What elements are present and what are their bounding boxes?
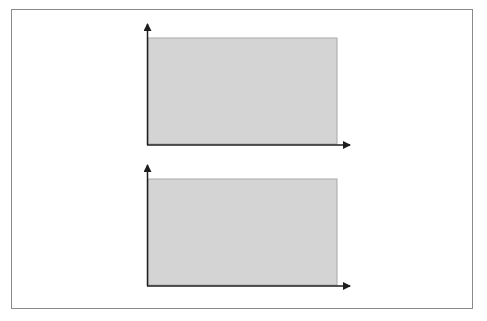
diagram-top (147, 24, 350, 145)
plot-area (148, 38, 337, 144)
plot-area (148, 179, 337, 285)
diagram-canvas (0, 0, 487, 321)
diagram-bottom (147, 165, 350, 286)
